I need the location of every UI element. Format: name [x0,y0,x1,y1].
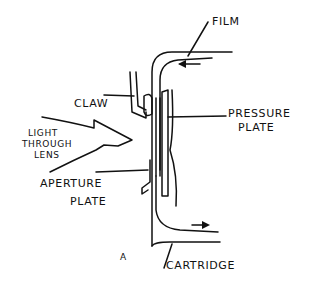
label-claw: CLAW [74,98,108,110]
label-aperture: APERTURE [40,178,102,190]
label-cartridge: CARTRIDGE [166,260,235,272]
film-gate-diagram: FILM CLAW PRESSURE PLATE LIGHT THROUGH L… [0,0,312,292]
film-bottom-arrowhead-icon [202,221,210,229]
film-leader-line [188,22,208,56]
cartridge-bottom-line [152,242,220,246]
film-top-arrowhead-icon [178,60,186,68]
label-film: FILM [212,16,240,28]
label-pressure-plate: PLATE [238,122,274,134]
claw-leader-line [104,95,134,96]
pressure-plate-leader-line [168,116,226,117]
housing-outer-line [152,52,232,246]
aperture-leader-line [96,170,148,172]
pressure-plate-spring [170,90,176,206]
label-figure-letter: A [120,251,127,263]
pressure-plate [162,90,168,196]
claw-tooth [144,94,152,115]
label-aperture-plate: PLATE [70,196,106,208]
label-pressure: PRESSURE [228,108,291,120]
label-lens: LENS [34,149,60,161]
aperture-plate [142,160,150,194]
film-bottom-line [156,176,218,232]
